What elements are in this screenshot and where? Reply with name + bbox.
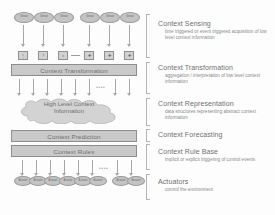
legend-actuators: Actuators control the environment <box>158 178 274 193</box>
flow-arrow <box>129 25 130 46</box>
sensor-input-box[interactable]: ⋮ <box>18 51 28 60</box>
flow-arrow <box>36 160 37 175</box>
flow-arrow <box>89 79 90 95</box>
legend-title: Context Forecasting <box>158 131 274 139</box>
flow-arrow <box>129 79 130 95</box>
cloud-label: High Level Context Information <box>18 101 120 115</box>
diagram-page: Sensor Sensor Sensor Sensor Sensor Senso… <box>0 0 275 215</box>
flow-arrow <box>50 160 51 175</box>
legend-title: Context Transformation <box>158 64 274 72</box>
flow-arrow <box>43 25 44 46</box>
cloud-label-line2: Information <box>18 108 120 115</box>
flow-arrow <box>75 79 76 95</box>
actuator-node[interactable]: Actuator <box>127 176 145 186</box>
legend-title: Actuators <box>158 178 274 186</box>
bracket-context-rule-base <box>146 144 151 170</box>
legend-context-sensing: Context Sensing time triggered or event … <box>158 20 274 40</box>
sensor-node[interactable]: Sensor <box>120 12 140 23</box>
legend-description: time triggered or event triggered acquis… <box>158 28 274 40</box>
bracket-actuators <box>146 174 151 200</box>
flow-arrow <box>61 79 62 95</box>
sensor-input-box[interactable]: ✚ <box>124 51 134 60</box>
flow-arrow <box>19 79 20 95</box>
sensor-input-box[interactable]: ⌗ <box>58 51 68 60</box>
flow-ellipsis: •••• <box>96 85 105 90</box>
flow-arrow <box>47 79 48 95</box>
box-connector-line <box>71 55 80 56</box>
sensor-node[interactable]: Sensor <box>80 12 100 23</box>
sensor-node[interactable]: Sensor <box>34 12 54 23</box>
sensor-input-box[interactable]: ? <box>38 51 48 60</box>
flow-arrow <box>64 160 65 175</box>
flow-arrow <box>63 25 64 46</box>
flow-arrow <box>92 160 93 175</box>
legend-context-forecasting: Context Forecasting <box>158 131 274 139</box>
legend-context-representation: Context Representation data structures r… <box>158 100 274 120</box>
sensor-input-box[interactable]: ✚ <box>104 51 114 60</box>
sensor-node[interactable]: Sensor <box>100 12 120 23</box>
flow-arrow <box>89 25 90 46</box>
bracket-context-representation <box>146 98 151 126</box>
flow-arrow <box>109 25 110 46</box>
sensor-input-box[interactable]: ✚ <box>84 51 94 60</box>
flow-arrow <box>131 160 132 175</box>
flow-arrow <box>33 79 34 95</box>
legend-description: aggregation / interpretation of low leve… <box>158 72 274 84</box>
sensor-node[interactable]: Sensor <box>54 12 74 23</box>
context-prediction-bar[interactable]: Context Prediction <box>11 130 137 142</box>
context-rules-bar[interactable]: Context Rules <box>11 145 137 157</box>
legend-context-transformation: Context Transformation aggregation / int… <box>158 64 274 84</box>
context-transformation-bar[interactable]: Context Transformation <box>11 64 137 76</box>
sensor-node[interactable]: Sensor <box>14 12 34 23</box>
legend-context-rule-base: Context Rule Base implicit or explicit t… <box>158 148 274 163</box>
flow-arrow <box>115 79 116 95</box>
actuator-node[interactable]: Actuator <box>89 176 107 186</box>
legend-description: control the environment <box>158 186 274 193</box>
legend-title: Context Representation <box>158 100 274 108</box>
bracket-context-transformation <box>146 62 151 94</box>
flow-arrow <box>117 160 118 175</box>
cloud-label-line1: High Level Context <box>18 101 120 108</box>
flow-arrow <box>23 25 24 46</box>
legend-title: Context Rule Base <box>158 148 274 156</box>
flow-arrow <box>22 160 23 175</box>
bracket-context-sensing <box>146 14 151 58</box>
bracket-context-forecasting <box>146 129 151 142</box>
legend-title: Context Sensing <box>158 20 274 28</box>
legend-description: data structures representing abstract co… <box>158 108 274 120</box>
flow-arrow <box>78 160 79 175</box>
flow-ellipsis: •••• <box>99 166 108 171</box>
legend-description: implicit or explicit triggering of contr… <box>158 156 274 163</box>
